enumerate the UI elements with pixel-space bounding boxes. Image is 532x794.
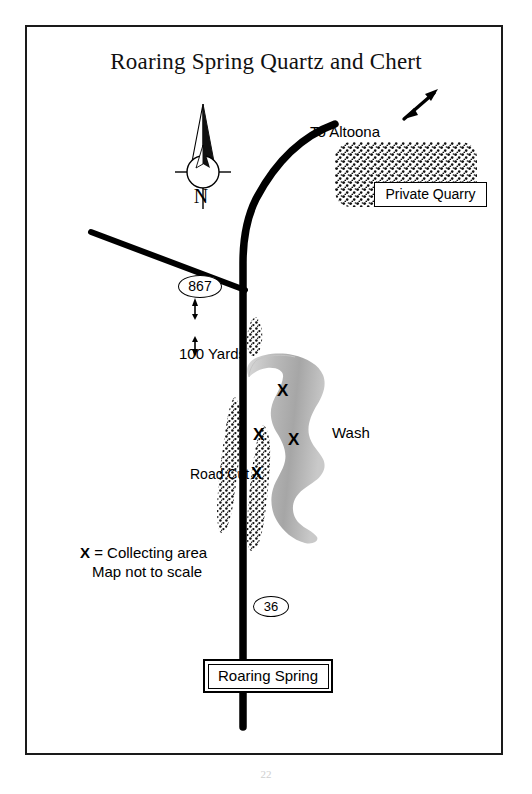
private-quarry-label: Private Quarry <box>374 182 487 207</box>
collecting-area-marker-1: X <box>277 382 288 399</box>
map-frame-border: Roaring Spring Quartz and Chert <box>25 25 503 755</box>
roaring-spring-town-box: Roaring Spring <box>203 659 333 693</box>
map-graphics-layer <box>27 27 505 757</box>
to-altoona-label: To Altoona <box>310 123 380 140</box>
page-number: 22 <box>0 768 532 780</box>
scale-bar-label: 100 Yards <box>179 345 246 362</box>
compass-north-label: N <box>185 180 217 212</box>
route-867-road <box>91 232 245 290</box>
wash-label: Wash <box>332 424 370 441</box>
collecting-area-marker-3: X <box>288 431 299 448</box>
legend-x-glyph: X <box>80 544 90 561</box>
page-title: Roaring Spring Quartz and Chert <box>27 49 505 75</box>
map-legend: X = Collecting area Map not to scale <box>80 543 207 581</box>
legend-equals-text: = Collecting area <box>90 544 207 561</box>
legend-collecting-area-line: X = Collecting area <box>80 543 207 562</box>
route-shield-36: 36 <box>253 596 289 617</box>
collecting-area-marker-4: X <box>251 465 262 482</box>
map-page: Roaring Spring Quartz and Chert <box>0 0 532 794</box>
legend-scale-note: Map not to scale <box>80 562 207 581</box>
route-shield-867: 867 <box>178 275 222 298</box>
roaring-spring-label: Roaring Spring <box>208 664 329 689</box>
arrow-up-right-icon <box>404 89 438 119</box>
road-cut-strip-upper <box>247 317 262 356</box>
road-cut-label: Road Cut <box>190 466 249 482</box>
collecting-area-marker-2: X <box>253 426 264 443</box>
